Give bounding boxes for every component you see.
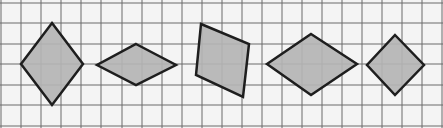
grid-diagram [0,0,443,128]
